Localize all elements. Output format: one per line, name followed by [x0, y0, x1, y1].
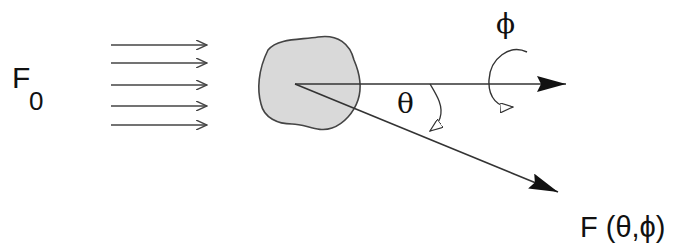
azimuth-angle-arrow [489, 50, 527, 107]
incident-flux-symbol: F [12, 61, 30, 94]
scattering-diagram: F 0 θ ϕ F (θ,ϕ) [0, 0, 684, 248]
azimuth-angle-label: ϕ [496, 7, 515, 40]
incident-flux-subscript: 0 [29, 86, 43, 116]
polar-angle-arrow [430, 84, 441, 131]
scattering-particle [259, 36, 360, 129]
polar-angle-label: θ [397, 87, 414, 120]
scattered-flux-label: F (θ,ϕ) [580, 211, 666, 243]
incident-rays [111, 45, 207, 125]
incident-flux-label: F 0 [12, 61, 43, 116]
scattered-ray-arrow [295, 84, 558, 192]
